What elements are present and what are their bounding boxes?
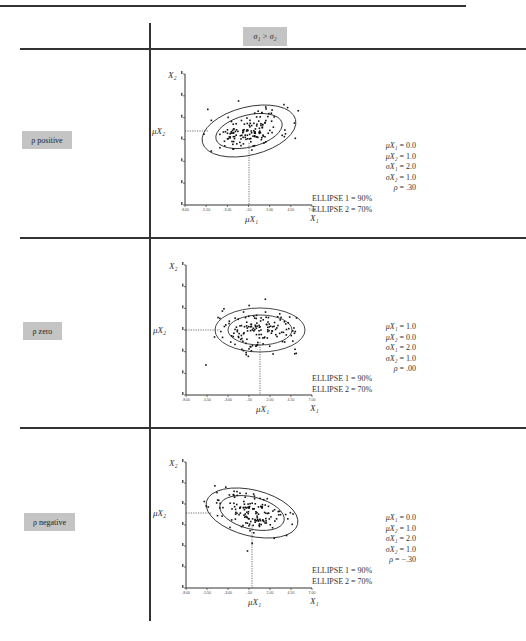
data-point — [247, 129, 249, 131]
data-point — [272, 510, 274, 512]
mu-x1-label: μX₁ — [247, 597, 261, 607]
data-point — [271, 120, 273, 122]
data-point — [238, 336, 240, 338]
data-point — [228, 136, 230, 138]
data-point — [232, 144, 234, 146]
x-tick-label: 4.50 — [288, 398, 295, 402]
data-point — [244, 513, 246, 515]
data-point — [267, 327, 269, 329]
data-point — [244, 137, 246, 139]
data-point — [261, 137, 263, 139]
x-tick-label: -3.00 — [224, 591, 232, 595]
data-point — [237, 329, 239, 331]
data-point — [229, 494, 231, 496]
data-point — [250, 130, 252, 132]
data-point — [268, 512, 270, 514]
data-point — [245, 493, 247, 495]
data-point — [288, 328, 290, 330]
mu-x2-label: μX₂ — [152, 325, 166, 335]
data-point — [250, 141, 252, 143]
data-point — [255, 345, 257, 347]
y-tick-mark — [182, 262, 184, 265]
data-point — [268, 326, 270, 328]
data-point — [236, 129, 238, 131]
x-axis-label: X₁ — [309, 596, 319, 606]
data-point — [256, 512, 258, 514]
data-point — [269, 345, 271, 347]
data-point — [268, 323, 270, 325]
data-point — [220, 331, 222, 333]
data-point — [248, 348, 250, 350]
data-point — [258, 334, 260, 336]
data-point — [251, 543, 253, 545]
data-point — [243, 143, 245, 145]
data-point — [262, 319, 264, 321]
y-tick-mark — [182, 370, 184, 373]
x-axis-label: X₁ — [309, 213, 319, 223]
data-point — [231, 141, 233, 143]
data-point — [236, 504, 238, 506]
data-point — [230, 341, 232, 343]
data-point — [244, 134, 246, 136]
data-point — [261, 506, 263, 508]
data-point — [247, 138, 249, 140]
data-point — [241, 335, 243, 337]
data-point — [272, 353, 274, 355]
x-tick-label: 2.00 — [266, 208, 273, 212]
data-point — [260, 320, 262, 322]
data-point — [233, 132, 235, 134]
data-point — [249, 120, 251, 122]
data-point — [266, 522, 268, 524]
data-point — [279, 319, 281, 321]
data-point — [235, 123, 237, 125]
data-point — [232, 123, 234, 125]
data-point — [275, 334, 277, 336]
data-point — [258, 132, 260, 134]
data-point — [235, 513, 237, 515]
data-point — [250, 324, 252, 326]
data-point — [245, 522, 247, 524]
data-point — [252, 518, 254, 520]
data-point — [236, 491, 238, 493]
x-tick-label: -.50 — [245, 208, 251, 212]
data-point — [244, 496, 246, 498]
data-point — [297, 110, 299, 112]
data-point — [254, 503, 256, 505]
mu-x2-label: μX₂ — [152, 508, 166, 518]
data-point — [256, 125, 258, 127]
ellipse-70 — [212, 107, 286, 155]
data-point — [276, 518, 278, 520]
data-point — [236, 331, 238, 333]
data-point — [259, 337, 261, 339]
x-tick-label: -5.50 — [202, 208, 210, 212]
data-point — [253, 532, 255, 534]
data-point — [258, 325, 260, 327]
data-point — [245, 516, 247, 518]
data-point — [269, 130, 271, 132]
x-tick-label: 2.00 — [267, 591, 274, 595]
data-point — [249, 503, 251, 505]
data-point — [262, 126, 264, 128]
data-point — [285, 133, 287, 135]
data-point — [271, 109, 273, 111]
data-point — [292, 330, 294, 332]
data-point — [233, 491, 235, 493]
data-point — [208, 506, 210, 508]
x-tick-label: -5.50 — [203, 591, 211, 595]
data-point — [217, 499, 219, 501]
y-tick-mark — [182, 543, 184, 546]
y-tick-mark — [181, 180, 183, 183]
data-point — [234, 329, 236, 331]
y-tick-mark — [181, 137, 183, 140]
data-point — [219, 134, 221, 136]
data-point — [246, 117, 248, 119]
data-point — [281, 135, 283, 137]
scatter-plots: -8.00-5.50-3.00-.502.004.507.00X₂X₁μX₂μX… — [0, 0, 526, 641]
data-point — [247, 503, 249, 505]
data-point — [292, 340, 294, 342]
x-tick-label: 7.00 — [309, 398, 316, 402]
data-point — [240, 145, 242, 147]
data-point — [206, 505, 208, 507]
y-axis-label: X₂ — [168, 261, 178, 271]
x-tick-label: -.50 — [246, 591, 252, 595]
